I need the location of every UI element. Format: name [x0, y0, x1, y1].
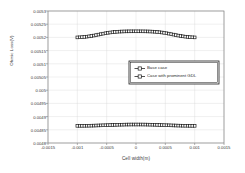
y-tick-label: 0.00495 [16, 101, 46, 106]
x-tick-label: 0.001 [180, 145, 210, 150]
x-tick-label: -0.0015 [33, 145, 63, 150]
x-tick-label: 0.0005 [150, 145, 180, 150]
y-tick-label: 0.0049 [16, 114, 46, 119]
y-tick-label: 0.00525 [16, 22, 46, 27]
legend-entry-label: Case with prominent GDL [147, 73, 213, 78]
y-tick-label: 0.005 [16, 88, 46, 93]
x-axis-title: Cell width(m) [48, 156, 224, 161]
x-tick-label: -0.0005 [92, 145, 122, 150]
y-axis-title: Ohmic Loss(V) [9, 18, 14, 84]
legend-entry: Case with prominent GDL [147, 73, 213, 80]
y-tick-label: 0.0053 [16, 9, 46, 14]
y-tick-label: 0.0051 [16, 61, 46, 66]
x-tick-label: 0 [121, 145, 151, 150]
x-tick-label: 0.0015 [209, 145, 239, 150]
legend-entry-label: Base case [147, 65, 213, 70]
y-tick-label: 0.00515 [16, 48, 46, 53]
x-tick-label: -0.001 [62, 145, 92, 150]
y-tick-label: 0.00505 [16, 75, 46, 80]
y-tick-label: 0.0052 [16, 35, 46, 40]
legend-box: Base caseCase with prominent GDL [129, 61, 219, 84]
legend-entry: Base case [147, 65, 213, 72]
y-tick-label: 0.00485 [16, 127, 46, 132]
